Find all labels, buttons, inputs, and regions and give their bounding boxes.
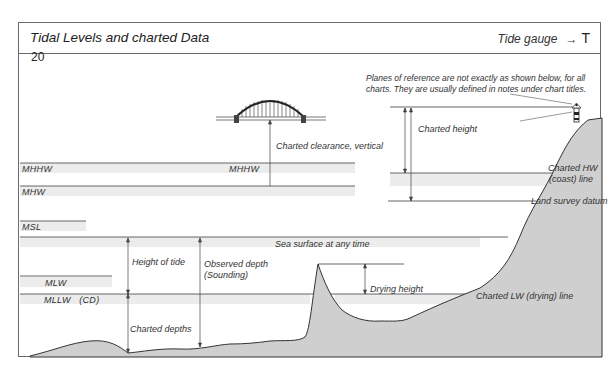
level-msl-label: MSL bbox=[22, 222, 41, 233]
level-mhhw-center-label: MHHW bbox=[229, 164, 259, 175]
level-mllw-cd-label: MLLW (CD) bbox=[44, 295, 99, 306]
reference-note-line1: Planes of reference are not exactly as s… bbox=[366, 73, 585, 84]
charted-depths-label: Charted depths bbox=[130, 324, 192, 335]
height-of-tide-label: Height of tide bbox=[132, 257, 185, 268]
reference-note-line2: charts. They are usually defined in note… bbox=[366, 84, 586, 95]
sea-surface-label: Sea surface at any time bbox=[275, 239, 370, 250]
charted-height-label: Charted height bbox=[418, 124, 477, 135]
level-mlw-label: MLW bbox=[45, 278, 67, 289]
charted-clearance-label: Charted clearance, vertical bbox=[276, 141, 383, 152]
drying-height-label: Drying height bbox=[370, 284, 423, 295]
charted-hw-label-line2: (coast) line bbox=[549, 174, 593, 185]
tidal-diagram-graphic bbox=[0, 0, 608, 378]
lighthouse-icon bbox=[572, 103, 581, 122]
bridge-icon bbox=[216, 100, 326, 123]
level-lines bbox=[20, 107, 580, 294]
level-mhw-label: MHW bbox=[22, 187, 45, 198]
observed-depth-label-line2: (Sounding) bbox=[204, 270, 248, 281]
note-pointer-lines bbox=[510, 94, 572, 121]
charted-hw-label-line1: Charted HW bbox=[548, 163, 598, 174]
level-bands bbox=[20, 163, 560, 304]
land-survey-datum-label: Land survey datum bbox=[531, 196, 608, 207]
observed-depth-label-line1: Observed depth bbox=[204, 259, 268, 270]
level-mhhw-label: MHHW bbox=[22, 164, 52, 175]
charted-lw-line-label: Charted LW (drying) line bbox=[476, 291, 573, 302]
